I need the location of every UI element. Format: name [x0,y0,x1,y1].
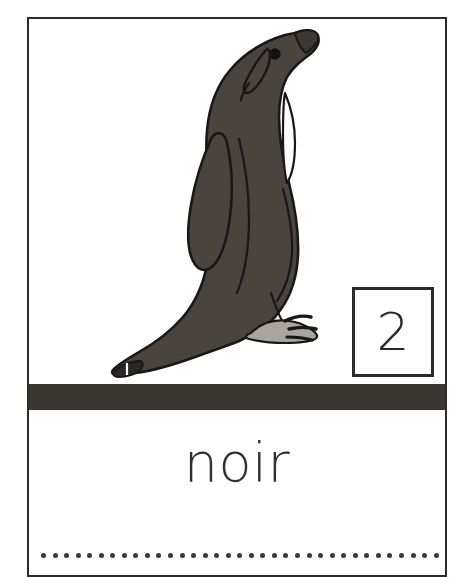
guide-dot [41,553,46,558]
number-box: 2 [352,287,434,377]
word-area: noir [29,410,445,515]
guide-dot [399,553,404,558]
guide-dot [434,553,439,558]
guide-dot [99,553,104,558]
penguin-toe-1 [285,316,311,321]
guide-dot [156,553,161,558]
guide-dot [387,553,392,558]
penguin-back-highlight [283,93,295,183]
guide-dot [133,553,138,558]
guide-dot [110,553,115,558]
guide-dot [226,553,231,558]
guide-dot [87,553,92,558]
guide-dot [422,553,427,558]
guide-dot [53,553,58,558]
word-label: noir [184,436,290,490]
penguin-eye [270,49,280,59]
guide-dot [341,553,346,558]
illustration-area: 2 [29,19,445,384]
guide-dot [330,553,335,558]
number-box-value: 2 [376,306,409,358]
guide-dot [364,553,369,558]
guide-dot [353,553,358,558]
guide-dot [214,553,219,558]
guide-dot [260,553,265,558]
guide-dot [145,553,150,558]
guide-dot [168,553,173,558]
separator-bar [29,384,445,410]
guide-dot [318,553,323,558]
writing-guide-dots [41,550,439,560]
guide-dot [237,553,242,558]
guide-dot [64,553,69,558]
guide-dot [376,553,381,558]
guide-dot [295,553,300,558]
vocabulary-flashcard: 2 noir [27,17,447,577]
guide-dot [272,553,277,558]
guide-dot [411,553,416,558]
guide-dot [76,553,81,558]
guide-dot [283,553,288,558]
guide-dot [191,553,196,558]
guide-dot [122,553,127,558]
penguin-toe-2 [289,328,316,330]
guide-dot [180,553,185,558]
guide-dot [203,553,208,558]
guide-dot [307,553,312,558]
penguin-illustration [99,21,349,383]
guide-dot [249,553,254,558]
